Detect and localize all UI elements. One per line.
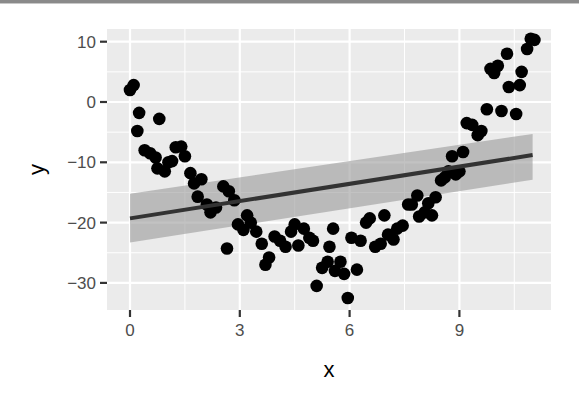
data-point xyxy=(250,225,263,238)
data-point xyxy=(354,234,367,247)
data-point xyxy=(310,280,323,293)
y-axis: 100−10−20−30 xyxy=(67,33,107,293)
data-point xyxy=(179,150,192,163)
data-point xyxy=(513,79,526,92)
data-point xyxy=(327,222,340,235)
y-tick-label: 10 xyxy=(77,33,96,52)
data-point xyxy=(334,255,347,268)
data-point xyxy=(495,105,508,118)
data-point xyxy=(363,212,376,225)
data-point xyxy=(195,173,208,186)
data-point xyxy=(323,240,336,253)
data-point xyxy=(515,66,528,79)
y-tick-label: 0 xyxy=(87,93,96,112)
data-point xyxy=(396,219,409,232)
data-point xyxy=(166,155,179,168)
data-point xyxy=(341,292,354,305)
data-point xyxy=(351,263,364,276)
data-point xyxy=(510,108,523,121)
x-axis: 0369 xyxy=(125,310,464,340)
scatter-plot: 0369 100−10−20−30 x y xyxy=(0,0,579,395)
data-point xyxy=(387,233,400,246)
data-point xyxy=(429,191,442,204)
data-point xyxy=(446,150,459,163)
y-tick-label: −30 xyxy=(67,274,96,293)
data-point xyxy=(279,240,292,253)
data-point xyxy=(133,107,146,120)
data-point xyxy=(149,151,162,164)
y-tick-label: −10 xyxy=(67,153,96,172)
data-point xyxy=(153,113,166,126)
data-point xyxy=(528,34,541,47)
x-tick-label: 6 xyxy=(345,321,354,340)
data-point xyxy=(338,268,351,281)
data-point xyxy=(221,242,234,255)
data-point xyxy=(307,234,320,247)
data-point xyxy=(292,239,305,252)
y-axis-title: y xyxy=(24,164,49,175)
data-point xyxy=(501,47,514,60)
data-point xyxy=(411,189,424,202)
data-point xyxy=(503,81,516,94)
data-point xyxy=(131,125,144,138)
x-axis-title: x xyxy=(324,357,335,382)
data-point xyxy=(475,125,488,138)
y-tick-label: −20 xyxy=(67,214,96,233)
x-tick-label: 3 xyxy=(235,321,244,340)
data-point xyxy=(127,79,140,92)
x-tick-label: 9 xyxy=(455,321,464,340)
data-point xyxy=(263,251,276,264)
data-point xyxy=(492,60,505,73)
data-point xyxy=(426,209,439,222)
data-point xyxy=(481,103,494,116)
data-point xyxy=(378,209,391,222)
x-tick-label: 0 xyxy=(125,321,134,340)
data-point xyxy=(457,146,470,159)
data-point xyxy=(255,237,268,250)
